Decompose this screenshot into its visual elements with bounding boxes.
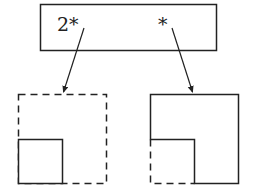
arrow-right	[172, 28, 193, 92]
label-2-star: 2*	[57, 13, 79, 35]
right-figure	[151, 95, 239, 184]
label-star: *	[158, 13, 168, 35]
diagram-canvas: 2* *	[0, 0, 253, 195]
solid-l-shape	[151, 95, 239, 184]
dashed-missing-corner	[151, 140, 195, 184]
solid-inner-square	[19, 140, 63, 184]
left-figure	[19, 95, 107, 184]
arrow-left	[64, 28, 85, 92]
